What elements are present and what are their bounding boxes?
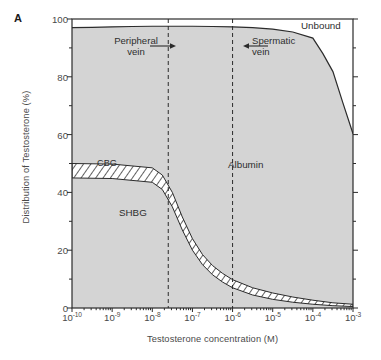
annotation-peripheral-vein: Peripheral vein [104,35,168,57]
region-label-albumin: Albumin [228,159,263,170]
region-label-unbound: Unbound [301,20,341,31]
peripheral-vein-line1: Peripheral [114,35,158,46]
annotation-spermatic-vein: Spermatic vein [252,35,316,57]
region-label-shbg: SHBG [119,207,147,218]
plot-area [0,0,381,360]
spermatic-vein-line2: vein [252,46,270,57]
figure-panel-a: A Distribution of Testosterone (%) Testo… [0,0,381,360]
spermatic-vein-line1: Spermatic [252,35,295,46]
peripheral-vein-line2: vein [127,46,145,57]
region-label-cbg: CBG [97,158,117,168]
